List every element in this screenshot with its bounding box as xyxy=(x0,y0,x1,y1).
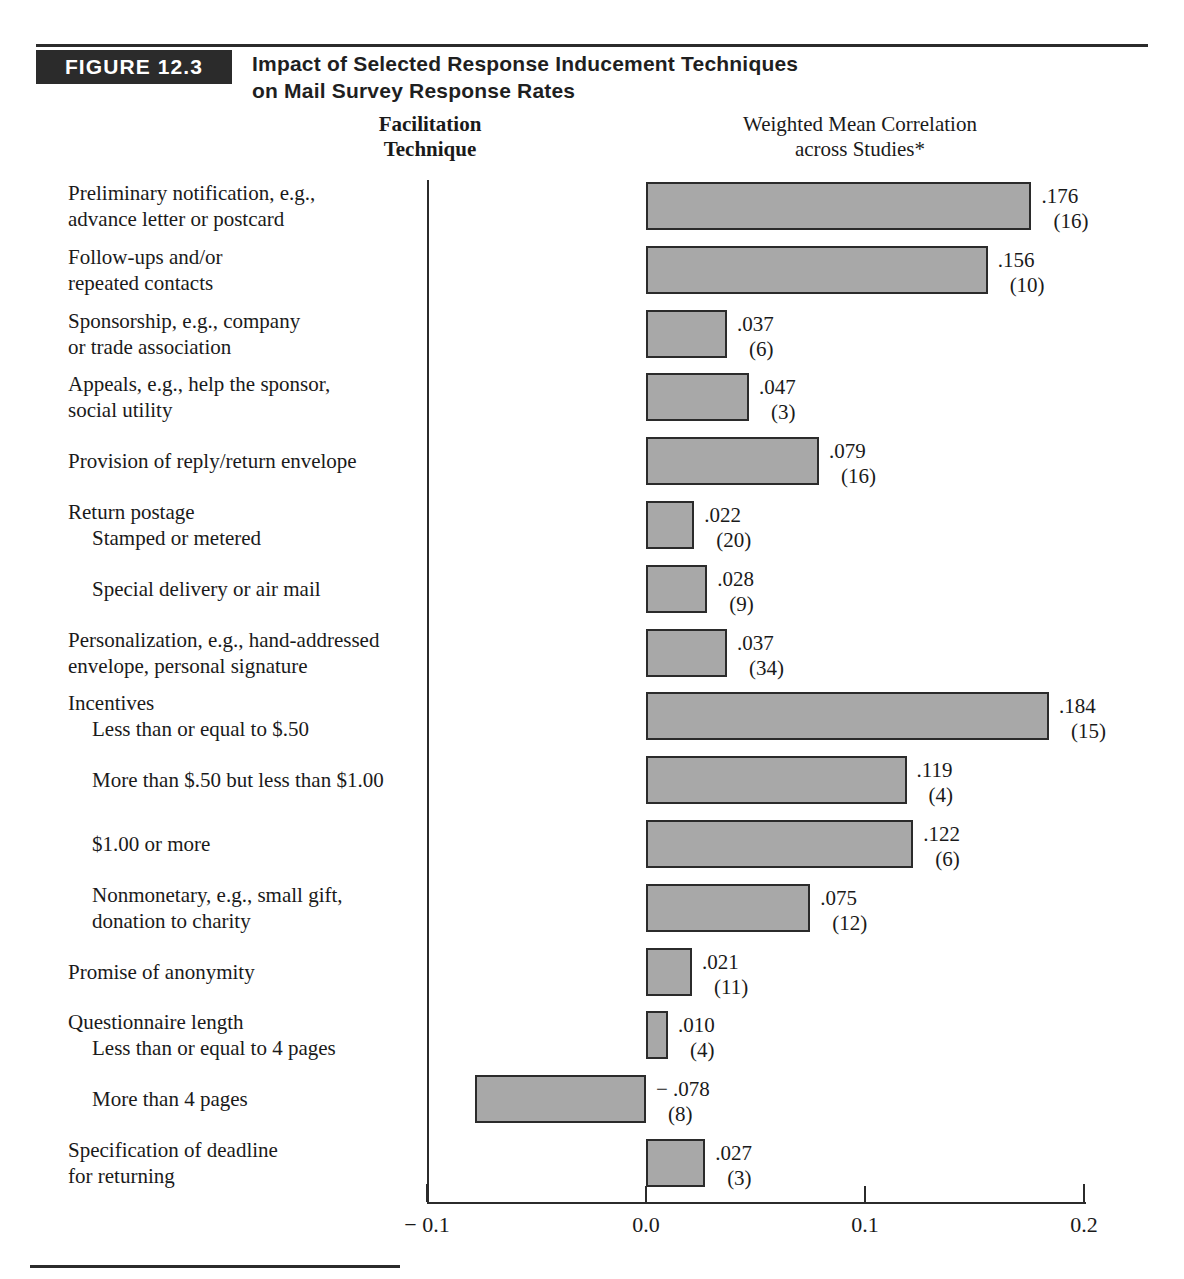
row-label-line-2: Less than or equal to $.50 xyxy=(68,716,418,742)
header-rule xyxy=(36,44,1148,47)
bar-value-label: .010(4) xyxy=(678,1013,715,1063)
row-label: Promise of anonymity xyxy=(68,959,418,985)
chart-bar xyxy=(646,884,810,932)
chart-bar xyxy=(646,246,988,294)
row-label-line-1: Personalization, e.g., hand-addressed xyxy=(68,627,418,653)
bar-value-number: .037 xyxy=(737,631,784,656)
row-label: Questionnaire lengthLess than or equal t… xyxy=(68,1009,418,1061)
x-axis-tick-label: − 0.1 xyxy=(382,1212,472,1238)
row-label-line-1: Preliminary notification, e.g., xyxy=(68,180,418,206)
bar-value-label: .037(6) xyxy=(737,312,774,362)
chart-bar xyxy=(646,310,727,358)
row-label-line-1: Appeals, e.g., help the sponsor, xyxy=(68,371,418,397)
bar-value-number: .047 xyxy=(759,375,796,400)
x-axis-tick-label: 0.1 xyxy=(820,1212,910,1238)
x-axis-tick-label: 0.0 xyxy=(601,1212,691,1238)
chart-bar xyxy=(646,565,707,613)
column-heading-right-line-1: Weighted Mean Correlation xyxy=(640,112,1080,137)
x-axis-tick xyxy=(864,1186,866,1202)
chart-bar xyxy=(646,820,913,868)
bar-value-label: .079(16) xyxy=(829,439,876,489)
row-label-line-1: Follow-ups and/or xyxy=(68,244,418,270)
row-label-line-1: Specification of deadline xyxy=(68,1137,418,1163)
figure-number-badge: FIGURE 12.3 xyxy=(36,50,232,84)
column-heading-right-line-2: across Studies* xyxy=(640,137,1080,162)
bar-study-count: (15) xyxy=(1059,719,1106,744)
column-heading-left-line-2: Technique xyxy=(300,137,560,162)
row-label-line-2: donation to charity xyxy=(92,908,442,934)
bar-value-number: .027 xyxy=(715,1141,752,1166)
row-label-line-1: Provision of reply/return envelope xyxy=(68,448,418,474)
row-label-line-1: Incentives xyxy=(68,690,418,716)
chart-bar xyxy=(646,629,727,677)
row-label: Specification of deadlinefor returning xyxy=(68,1137,418,1189)
row-label-line-1: More than $.50 but less than $1.00 xyxy=(92,767,442,793)
row-label-line-1: Promise of anonymity xyxy=(68,959,418,985)
row-label: More than 4 pages xyxy=(92,1086,442,1112)
row-label-line-1: $1.00 or more xyxy=(92,831,442,857)
bar-study-count: (3) xyxy=(759,400,796,425)
row-label-line-1: Special delivery or air mail xyxy=(92,576,442,602)
row-label-line-2: social utility xyxy=(68,397,418,423)
bar-value-number: .079 xyxy=(829,439,876,464)
bar-value-number: .028 xyxy=(717,567,754,592)
row-label: Appeals, e.g., help the sponsor,social u… xyxy=(68,371,418,423)
x-axis-tick xyxy=(1083,1184,1085,1202)
bar-study-count: (12) xyxy=(820,911,867,936)
bar-value-label: .176(16) xyxy=(1041,184,1088,234)
chart-bar xyxy=(646,373,749,421)
row-label: Return postageStamped or metered xyxy=(68,499,418,551)
bar-study-count: (4) xyxy=(917,783,954,808)
row-label-line-2: or trade association xyxy=(68,334,418,360)
row-label: Provision of reply/return envelope xyxy=(68,448,418,474)
figure-title-line-1: Impact of Selected Response Inducement T… xyxy=(252,50,932,77)
column-heading-left-line-1: Facilitation xyxy=(300,112,560,137)
bar-value-label: .027(3) xyxy=(715,1141,752,1191)
chart-bar xyxy=(646,437,819,485)
row-label-line-1: Nonmonetary, e.g., small gift, xyxy=(92,882,442,908)
bar-study-count: (8) xyxy=(656,1102,710,1127)
bar-study-count: (16) xyxy=(1041,209,1088,234)
row-label-line-2: advance letter or postcard xyxy=(68,206,418,232)
x-axis-line xyxy=(427,1202,1086,1204)
bar-value-number: .122 xyxy=(923,822,960,847)
bar-study-count: (11) xyxy=(702,975,748,1000)
row-label-line-2: envelope, personal signature xyxy=(68,653,418,679)
row-label: Nonmonetary, e.g., small gift,donation t… xyxy=(92,882,442,934)
chart-bar xyxy=(646,692,1049,740)
row-label: Follow-ups and/orrepeated contacts xyxy=(68,244,418,296)
bar-study-count: (6) xyxy=(923,847,960,872)
bar-value-label: .184(15) xyxy=(1059,694,1106,744)
row-label-line-1: More than 4 pages xyxy=(92,1086,442,1112)
x-axis-tick xyxy=(645,1186,647,1202)
bar-study-count: (4) xyxy=(678,1038,715,1063)
row-label-line-2: repeated contacts xyxy=(68,270,418,296)
bar-study-count: (9) xyxy=(717,592,754,617)
x-axis-tick xyxy=(426,1184,428,1202)
chart-bar xyxy=(646,501,694,549)
column-heading-facilitation-technique: Facilitation Technique xyxy=(300,112,560,162)
row-label: More than $.50 but less than $1.00 xyxy=(92,767,442,793)
row-label: Special delivery or air mail xyxy=(92,576,442,602)
row-label-line-2: Less than or equal to 4 pages xyxy=(68,1035,418,1061)
bar-study-count: (20) xyxy=(704,528,751,553)
row-label: Preliminary notification, e.g.,advance l… xyxy=(68,180,418,232)
chart-bar xyxy=(646,1139,705,1187)
bar-value-label: .119(4) xyxy=(917,758,954,808)
bar-study-count: (3) xyxy=(715,1166,752,1191)
row-label-line-1: Sponsorship, e.g., company xyxy=(68,308,418,334)
row-label-line-1: Questionnaire length xyxy=(68,1009,418,1035)
bar-value-label: − .078(8) xyxy=(656,1077,710,1127)
bar-value-number: .010 xyxy=(678,1013,715,1038)
row-label-line-1: Return postage xyxy=(68,499,418,525)
bar-value-number: .037 xyxy=(737,312,774,337)
bar-value-number: − .078 xyxy=(656,1077,710,1102)
chart-bar xyxy=(646,756,907,804)
row-label: Personalization, e.g., hand-addressedenv… xyxy=(68,627,418,679)
bar-value-label: .075(12) xyxy=(820,886,867,936)
bar-study-count: (34) xyxy=(737,656,784,681)
bar-value-label: .022(20) xyxy=(704,503,751,553)
bar-value-number: .176 xyxy=(1041,184,1088,209)
bar-value-label: .037(34) xyxy=(737,631,784,681)
bar-value-number: .156 xyxy=(998,248,1045,273)
